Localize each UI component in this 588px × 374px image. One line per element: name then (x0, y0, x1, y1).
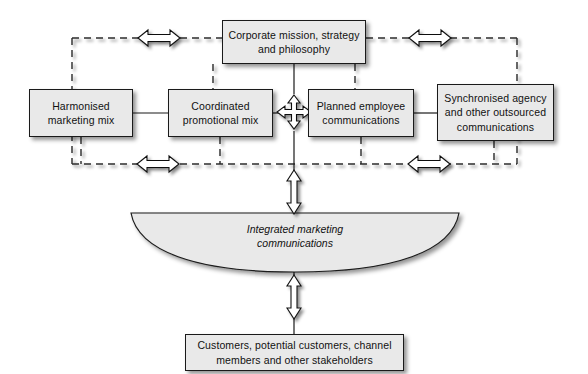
node-synchronised-agency-label: Synchronised agency and other outsourced… (444, 91, 546, 134)
node-synchronised-agency: Synchronised agency and other outsourced… (437, 84, 554, 141)
double-arrow-bottom-right (408, 156, 450, 172)
node-coordinated-promotional-mix: Coordinated promotional mix (168, 89, 273, 137)
node-customers-stakeholders-label: Customers, potential customers, channel … (197, 338, 391, 366)
diagram-canvas: Corporate mission, strategy and philosop… (0, 0, 588, 374)
node-corporate-mission: Corporate mission, strategy and philosop… (222, 20, 366, 64)
node-corporate-mission-label: Corporate mission, strategy and philosop… (228, 28, 359, 56)
double-arrow-bottom-left (137, 156, 179, 172)
node-coordinated-promotional-mix-label: Coordinated promotional mix (183, 99, 259, 127)
node-integrated-marketing-communications-label: Integrated marketing communications (193, 222, 397, 250)
double-arrow-mission-to-lens (287, 170, 301, 214)
node-harmonised-marketing-mix-label: Harmonised marketing mix (48, 99, 115, 127)
double-arrow-top-left (138, 30, 180, 46)
node-customers-stakeholders: Customers, potential customers, channel … (185, 334, 404, 371)
four-way-arrow (277, 95, 311, 129)
node-harmonised-marketing-mix: Harmonised marketing mix (29, 89, 133, 137)
node-planned-employee-communications: Planned employee communications (308, 89, 414, 137)
double-arrow-top-right (409, 30, 451, 46)
double-arrow-lens-to-customers (287, 275, 301, 319)
node-planned-employee-communications-label: Planned employee communications (317, 99, 406, 127)
